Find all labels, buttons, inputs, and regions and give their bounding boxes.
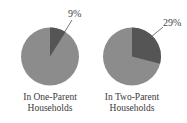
pct-label-two-parent: 29% <box>163 17 181 28</box>
pie-one-parent <box>21 20 79 86</box>
title-two-parent: In Two-Parent Households <box>94 92 170 114</box>
title-line-1: In One-Parent <box>12 92 88 103</box>
pct-label-one-parent: 9% <box>68 8 81 19</box>
pie-two-parent <box>103 27 163 86</box>
leader-line <box>151 27 163 37</box>
title-line-1: In Two-Parent <box>94 92 170 103</box>
title-line-2: Households <box>94 103 170 114</box>
title-line-2: Households <box>12 103 88 114</box>
leader-line <box>64 20 72 33</box>
title-one-parent: In One-Parent Households <box>12 92 88 114</box>
